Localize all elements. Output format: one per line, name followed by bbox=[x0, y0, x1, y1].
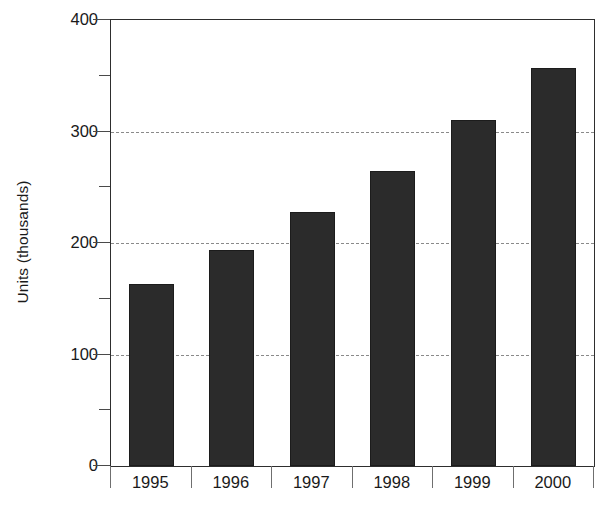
bar-1995 bbox=[129, 284, 174, 466]
bar-1998 bbox=[370, 171, 415, 466]
y-tick-major-0 bbox=[93, 465, 110, 466]
bar-1997 bbox=[290, 212, 335, 466]
y-tick-major-100 bbox=[93, 354, 110, 355]
x-tick-label-1996: 1996 bbox=[191, 474, 272, 491]
y-tick-label-300: 300 bbox=[26, 123, 98, 140]
y-tick-minor-150 bbox=[99, 298, 110, 299]
y-tick-minor-50 bbox=[99, 409, 110, 410]
y-tick-major-400 bbox=[93, 19, 110, 20]
gridline-200 bbox=[111, 243, 594, 244]
y-tick-minor-350 bbox=[99, 75, 110, 76]
y-tick-major-300 bbox=[93, 131, 110, 132]
y-tick-label-100: 100 bbox=[26, 346, 98, 363]
bar-chart: Units (thousands) 400 300 200 100 0 1995… bbox=[0, 0, 604, 518]
plot-inner bbox=[111, 20, 594, 466]
y-tick-label-400: 400 bbox=[26, 11, 98, 28]
y-tick-minor-250 bbox=[99, 186, 110, 187]
x-tick-label-2000: 2000 bbox=[513, 474, 594, 491]
x-tick-label-1998: 1998 bbox=[352, 474, 433, 491]
x-tick-label-1997: 1997 bbox=[271, 474, 352, 491]
y-tick-label-200: 200 bbox=[26, 234, 98, 251]
bar-1996 bbox=[209, 250, 254, 466]
y-tick-major-200 bbox=[93, 242, 110, 243]
x-tick-boundary-6 bbox=[593, 466, 594, 488]
y-tick-label-0: 0 bbox=[26, 457, 98, 474]
plot-area bbox=[110, 19, 595, 467]
bar-2000 bbox=[531, 68, 576, 466]
gridline-300 bbox=[111, 132, 594, 133]
x-tick-label-1999: 1999 bbox=[432, 474, 513, 491]
bar-1999 bbox=[451, 120, 496, 466]
y-axis-tick-labels: 400 300 200 100 0 bbox=[20, 0, 98, 518]
x-tick-label-1995: 1995 bbox=[110, 474, 191, 491]
gridline-100 bbox=[111, 355, 594, 356]
